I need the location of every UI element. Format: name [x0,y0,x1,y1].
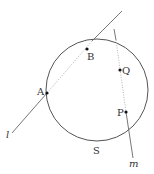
line-l-dotted [47,41,92,93]
line-m-upper [114,29,116,40]
geometry-diagram: A B Q P S l m [0,0,154,174]
point-a [45,91,48,94]
label-p: P [117,107,124,118]
line-m-lower [126,112,133,158]
point-p [124,110,127,113]
line-l-upper [92,11,122,41]
label-b: B [87,51,94,62]
label-m: m [129,158,138,169]
circle-s [46,39,148,141]
line-m-dotted [116,40,126,112]
label-q: Q [122,65,130,76]
line-l-lower [12,93,47,133]
label-s: S [93,145,100,156]
label-l: l [6,129,9,140]
label-a: A [36,86,45,97]
